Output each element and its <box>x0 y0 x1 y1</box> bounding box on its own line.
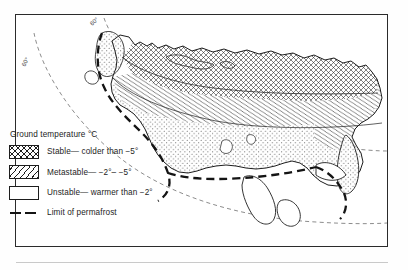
legend-item-unstable: Unstable— warmer than −2° <box>9 185 199 200</box>
legend-title: Ground temperature °C <box>10 130 199 139</box>
map-legend: Ground temperature °C Stable— colder tha… <box>9 130 199 220</box>
legend-item-metastable: Metastable— −2°– −5° <box>9 165 199 180</box>
dashed-line-icon <box>9 206 39 220</box>
legend-label-stable: Stable— colder than −5° <box>47 147 138 156</box>
permafrost-map-figure: A <box>0 0 408 270</box>
swatch-metastable-diagonal-hatch <box>9 165 39 179</box>
peninsula-tip <box>85 71 99 84</box>
swatch-unstable-stipple <box>9 186 39 200</box>
legend-item-permafrost-limit: Limit of permafrost <box>9 206 199 220</box>
bottom-divider <box>16 262 388 263</box>
legend-label-metastable: Metastable— −2°– −5° <box>47 168 132 177</box>
legend-label-permafrost-limit: Limit of permafrost <box>47 208 117 217</box>
legend-item-stable: Stable— colder than −5° <box>9 144 199 159</box>
swatch-stable-cross-hatch <box>9 145 39 159</box>
legend-label-unstable: Unstable— warmer than −2° <box>47 188 153 197</box>
